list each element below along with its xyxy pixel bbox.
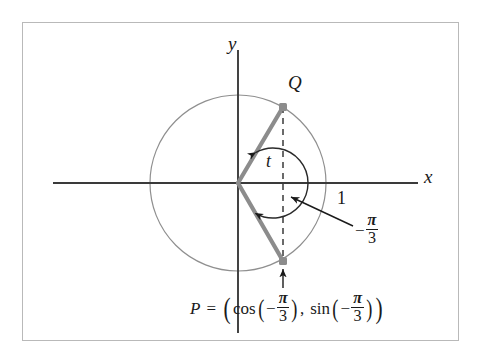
point-marker-q (279, 103, 287, 111)
angle-fraction: π 3 (366, 212, 379, 247)
equation-equals: = (206, 300, 216, 317)
equation-sin-open-paren: ( (332, 300, 338, 318)
equation-sin-close-paren: ) (366, 300, 372, 318)
equation-close-paren: ) (376, 299, 383, 317)
axis-x-label: x (424, 167, 432, 186)
equation-cos-name: cos (233, 300, 256, 317)
equation-cos-numerator: π (277, 290, 290, 307)
point-marker-p (279, 257, 287, 265)
angle-denominator: 3 (366, 229, 379, 247)
angle-value-label: − π 3 (355, 213, 378, 248)
radius-oq (238, 107, 283, 183)
equation-open-paren: ( (223, 299, 230, 317)
equation-cos-open-paren: ( (258, 300, 264, 318)
equation-cos-fraction: π 3 (277, 290, 290, 325)
tick-label-one: 1 (337, 189, 346, 207)
angle-numerator: π (366, 212, 379, 229)
equation-comma: , (300, 300, 304, 317)
equation-sin-name: sin (310, 300, 330, 317)
point-q-label: Q (288, 73, 302, 92)
equation-sin-denominator: 3 (351, 307, 364, 325)
equation-cos-sign: − (266, 300, 276, 317)
angle-minus-sign: − (355, 222, 365, 239)
angle-arc-label: t (266, 152, 271, 170)
equation-sin-numerator: π (351, 290, 364, 307)
point-p-equation: P = ( cos ( − π 3 ) , sin ( − π 3 ) ) (190, 291, 384, 326)
figure-root: y x Q t 1 − π 3 P = ( cos ( − π 3 (0, 0, 484, 357)
equation-lhs: P (190, 300, 200, 317)
radius-op (238, 183, 283, 261)
equation-cos-close-paren: ) (292, 300, 298, 318)
axis-y-label: y (228, 34, 236, 53)
equation-sin-fraction: π 3 (351, 290, 364, 325)
equation-cos-denominator: 3 (277, 307, 290, 325)
equation-sin-sign: − (341, 300, 351, 317)
